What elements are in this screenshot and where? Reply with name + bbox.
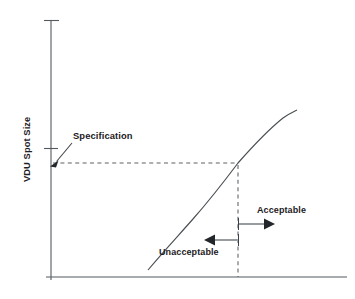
unacceptable-annotation-label: Unacceptable xyxy=(159,248,219,257)
specification-annotation-label: Specification xyxy=(73,131,133,140)
spot-size-curve xyxy=(148,110,297,270)
unacceptable-arrowhead-icon xyxy=(204,235,215,246)
acceptable-annotation-label: Acceptable xyxy=(257,206,306,215)
chart-figure: VDU Spot Size Specification Acceptable U… xyxy=(0,0,355,299)
specification-leader-line xyxy=(57,143,73,162)
acceptable-arrowhead-icon xyxy=(264,219,275,230)
y-axis-label: VDU Spot Size xyxy=(23,117,32,182)
